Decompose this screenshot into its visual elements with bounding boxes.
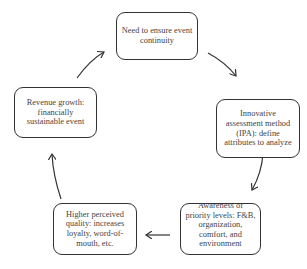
node-label: Higher perceived quality: increases loya… [58,210,132,248]
node-perceived-quality: Higher perceived quality: increases loya… [53,203,137,255]
node-revenue-growth: Revenue growth: financially sustainable … [14,87,97,138]
node-event-continuity: Need to ensure event continuity [116,12,198,60]
node-label: Need to ensure event continuity [121,26,193,45]
node-label: Innovative assessment method (IPA): defi… [221,109,295,147]
arrow-quality-to-revenue [52,154,61,199]
node-ipa-method: Innovative assessment method (IPA): defi… [216,99,300,158]
node-label: Revenue growth: financially sustainable … [19,98,92,127]
node-priority-levels: Awareness of priority levels: F&B, organ… [180,203,261,255]
arrow-revenue-to-continuity [77,52,104,78]
node-label: Awareness of priority levels: F&B, organ… [185,203,256,249]
arrow-continuity-to-ipa [208,53,236,76]
arrow-ipa-to-priority [252,153,263,190]
